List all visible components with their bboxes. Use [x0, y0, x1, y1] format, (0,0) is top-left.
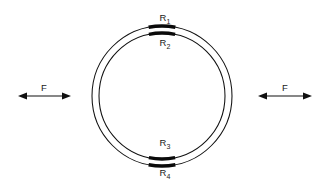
- gauge-label-r2: R2: [160, 37, 171, 50]
- strain-gauge-r4-arc: [149, 165, 176, 166]
- force-arrow-right: F: [258, 82, 312, 99]
- gauge-label-r1: R1: [160, 12, 171, 25]
- strain-gauge-r2-arc: [149, 33, 175, 34]
- gauge-label-r3: R3: [160, 137, 171, 150]
- gauge-label-r4: R4: [160, 167, 171, 180]
- force-label-left: F: [41, 82, 47, 93]
- force-arrow-right-head-west: [258, 93, 267, 100]
- figure-container: R1 R2 R3 R4 F F: [0, 0, 329, 191]
- force-label-right: F: [282, 82, 288, 93]
- force-arrow-left-head-east: [62, 93, 71, 100]
- force-arrow-right-head-east: [303, 93, 312, 100]
- ring-strain-gauge-diagram: R1 R2 R3 R4 F F: [0, 0, 329, 191]
- force-arrow-left-head-west: [18, 93, 27, 100]
- strain-gauge-r1-arc: [149, 26, 176, 27]
- strain-gauge-r3-arc: [149, 158, 175, 159]
- force-arrow-left: F: [18, 82, 71, 99]
